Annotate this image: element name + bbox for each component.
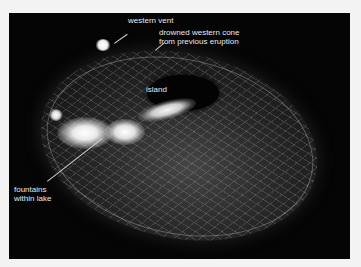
label-fountains-line1: fountains bbox=[14, 185, 51, 194]
label-fountains: fountains within lake bbox=[14, 185, 51, 203]
label-drowned-cone-line2: from previous eruption bbox=[159, 37, 240, 46]
label-fountains-line2: within lake bbox=[14, 194, 51, 203]
lava-lake-photo: western vent drowned western cone from p… bbox=[9, 13, 350, 259]
label-island: island bbox=[146, 85, 167, 94]
small-fountain-glow bbox=[49, 109, 63, 121]
label-drowned-cone: drowned western cone from previous erupt… bbox=[159, 28, 240, 46]
label-western-vent: western vent bbox=[128, 16, 173, 25]
western-vent-glow bbox=[95, 39, 111, 51]
fountain-glow-2 bbox=[105, 119, 145, 145]
label-drowned-cone-line1: drowned western cone bbox=[159, 28, 240, 37]
western-vent-leader bbox=[114, 34, 128, 44]
